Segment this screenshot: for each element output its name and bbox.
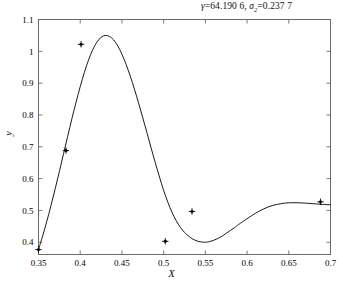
plot-area: 0.350.40.450.50.550.60.650.7 0.40.50.60.… [0,0,343,291]
y-tick-label: 0.8 [22,110,34,120]
x-axis-tick-labels: 0.350.40.450.50.550.60.650.7 [31,258,337,268]
x-axis-ticks [39,20,331,255]
data-point-markers [35,41,323,253]
y-tick-label: 0.7 [22,142,34,152]
data-point-marker [162,238,168,244]
x-tick-label: 0.35 [31,258,47,268]
y-tick-label: 0.4 [22,237,34,247]
data-point-marker [189,208,195,214]
y-tick-label: 1.1 [22,15,33,25]
data-point-marker [35,246,41,252]
x-tick-label: 0.6 [241,258,253,268]
y-axis-ticks [39,20,331,243]
x-tick-label: 0.45 [114,258,130,268]
y-tick-label: 1 [29,47,34,57]
x-axis-label: X [0,268,343,279]
axis-frame [39,20,331,255]
x-tick-label: 0.4 [75,258,87,268]
x-tick-label: 0.7 [325,258,337,268]
data-curve [39,35,331,249]
y-tick-label: 0.6 [22,174,34,184]
x-tick-label: 0.65 [281,258,297,268]
data-point-marker [78,41,84,47]
y-axis-tick-labels: 0.40.50.60.70.80.911.1 [22,15,34,248]
curve-path [39,35,331,249]
y-tick-label: 0.5 [22,206,34,216]
y-axis-label: y [3,119,14,149]
chart-figure: γ=64.190 6, σ2=0.237 7 0.350.40.450.50.5… [0,0,343,291]
y-tick-label: 0.9 [22,78,34,88]
x-tick-label: 0.5 [158,258,170,268]
x-tick-label: 0.55 [197,258,213,268]
